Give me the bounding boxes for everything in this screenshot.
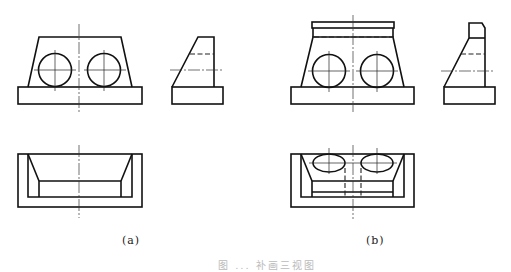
pocket-floor <box>312 181 393 197</box>
wedge-profile <box>444 23 485 87</box>
inner-pocket <box>301 154 404 197</box>
top-view-a <box>18 145 142 218</box>
front-view-a <box>18 24 142 112</box>
base-block <box>18 87 142 104</box>
wedge-profile <box>172 37 214 87</box>
side-view-b <box>441 23 495 104</box>
top-view-b <box>291 145 414 219</box>
panel-label-a: (a) <box>122 234 140 247</box>
taper-left <box>301 154 312 181</box>
taper-right <box>393 154 404 181</box>
trapezoid-body <box>28 37 132 87</box>
inner-pocket <box>28 154 132 197</box>
panel-label-b: (b) <box>366 234 385 247</box>
panel-b <box>291 15 495 219</box>
taper-right <box>121 154 132 181</box>
pocket-floor <box>39 181 121 197</box>
base-block <box>444 87 495 104</box>
panel-a <box>18 24 224 218</box>
figure-caption: 图 ... 补画三视图 <box>218 257 316 272</box>
taper-left <box>28 154 39 181</box>
side-view-a <box>170 37 224 104</box>
trapezoid-body <box>301 37 404 87</box>
base-block <box>291 87 414 104</box>
base-block <box>172 87 223 104</box>
front-view-b <box>291 15 414 112</box>
